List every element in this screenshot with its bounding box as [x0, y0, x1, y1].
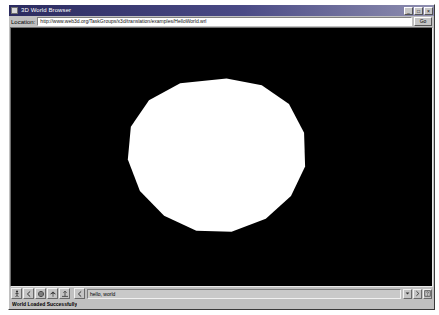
straighten-view-button[interactable] [59, 288, 70, 299]
chevron-left-icon [25, 290, 33, 298]
title-bar[interactable]: 3D World Browser _ □ × [9, 5, 434, 16]
walk-icon [13, 290, 21, 298]
fly-icon [49, 290, 57, 298]
go-button[interactable]: Go [414, 17, 432, 26]
chevron-right-icon [414, 290, 421, 297]
examine-navigation-button[interactable] [35, 288, 46, 299]
fly-navigation-button[interactable] [47, 288, 58, 299]
status-message: World Loaded Successfully [12, 301, 77, 308]
chevron-left-icon [76, 290, 84, 298]
previous-viewpoint-button[interactable] [74, 288, 85, 299]
maximize-button[interactable]: □ [414, 7, 423, 15]
close-button[interactable]: × [424, 7, 433, 15]
help-button[interactable] [423, 289, 432, 299]
location-bar: Location: http://www.web3d.org/TaskGroup… [9, 16, 434, 27]
pan-left-button[interactable] [23, 288, 34, 299]
straighten-icon [61, 290, 69, 298]
viewport-container [9, 27, 434, 287]
window-title: 3D World Browser [21, 7, 404, 14]
globe-icon [11, 7, 18, 14]
url-input[interactable]: http://www.web3d.org/TaskGroups/x3d/tran… [37, 17, 412, 26]
chevron-down-icon [404, 290, 411, 297]
viewport-canvas [11, 28, 432, 286]
navigation-toolbar: hello, world [9, 287, 434, 300]
toolbar-separator [71, 289, 73, 299]
status-bar: World Loaded Successfully [9, 300, 434, 309]
walk-navigation-button[interactable] [11, 288, 22, 299]
sphere-polygon [128, 78, 305, 231]
viewpoint-dropdown[interactable] [403, 289, 412, 299]
next-viewpoint-button[interactable] [413, 289, 422, 299]
3d-viewport[interactable] [10, 27, 433, 287]
minimize-button[interactable]: _ [404, 7, 413, 15]
window-controls: _ □ × [404, 7, 433, 15]
browser-window: 3D World Browser _ □ × Location: http://… [8, 4, 435, 310]
examine-icon [37, 290, 45, 298]
viewpoint-field[interactable]: hello, world [87, 289, 401, 299]
help-icon [424, 290, 431, 297]
location-label: Location: [11, 18, 35, 26]
